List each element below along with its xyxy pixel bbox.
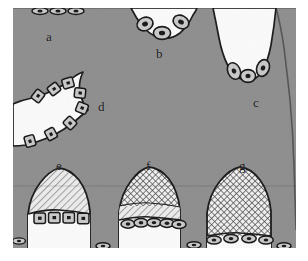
label-c: c (253, 96, 259, 109)
plate-grain (13, 8, 296, 248)
label-b: b (156, 47, 163, 60)
plate-content (13, 8, 296, 254)
label-e: e (56, 159, 62, 172)
figure-panel: a b c d e f g (0, 0, 308, 261)
label-g: g (239, 159, 246, 172)
label-f: f (146, 159, 150, 172)
label-a: a (46, 30, 52, 43)
label-d: d (98, 100, 105, 113)
